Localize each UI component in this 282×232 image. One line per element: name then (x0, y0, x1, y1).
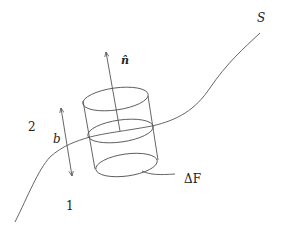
region-upper-label: 2 (28, 120, 36, 134)
area-label: ΔF (184, 172, 201, 186)
cylinder-bottom-ellipse (94, 150, 158, 180)
area-leader-line (142, 171, 175, 175)
normal-vector-arrow (106, 52, 120, 131)
cylinder-top-ellipse (81, 84, 149, 115)
height-double-arrow-b (61, 108, 67, 142)
surface-curve-S (15, 33, 260, 222)
region-lower-label: 1 (66, 199, 74, 213)
pillbox-diagram: S n̂ b 2 1 ΔF (0, 0, 282, 232)
height-double-arrow-b-lower (67, 142, 73, 176)
surface-label: S (257, 11, 265, 25)
normal-label: n̂ (121, 54, 129, 67)
cylinder-left-side (83, 101, 95, 169)
height-label: b (53, 132, 61, 146)
